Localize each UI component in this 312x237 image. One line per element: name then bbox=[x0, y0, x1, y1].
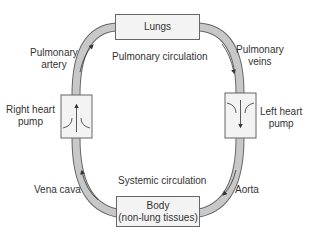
vena-cava-vessel bbox=[76, 138, 117, 213]
pulmonary-artery-label: Pulmonary artery bbox=[30, 47, 78, 71]
pulmonary-artery-vessel bbox=[76, 27, 116, 95]
pulmonary-circulation-label: Pulmonary circulation bbox=[112, 51, 208, 63]
pulmonary-veins-label: Pulmonary veins bbox=[236, 44, 284, 68]
lungs-box: Lungs bbox=[115, 14, 200, 40]
body-label: Body bbox=[117, 200, 199, 212]
lungs-label: Lungs bbox=[144, 21, 171, 32]
right-heart-pump bbox=[61, 95, 92, 138]
vena-cava-label: Vena cava bbox=[34, 184, 81, 196]
right-heart-pump-label: Right heart pump bbox=[6, 104, 55, 128]
aorta-label: Aorta bbox=[235, 184, 259, 196]
body-box: Body (non-lung tissues) bbox=[116, 196, 200, 227]
systemic-circulation-label: Systemic circulation bbox=[118, 175, 206, 187]
left-heart-pump bbox=[225, 93, 256, 138]
left-heart-pump-label: Left heart pump bbox=[260, 106, 302, 130]
body-sublabel: (non-lung tissues) bbox=[117, 212, 199, 224]
